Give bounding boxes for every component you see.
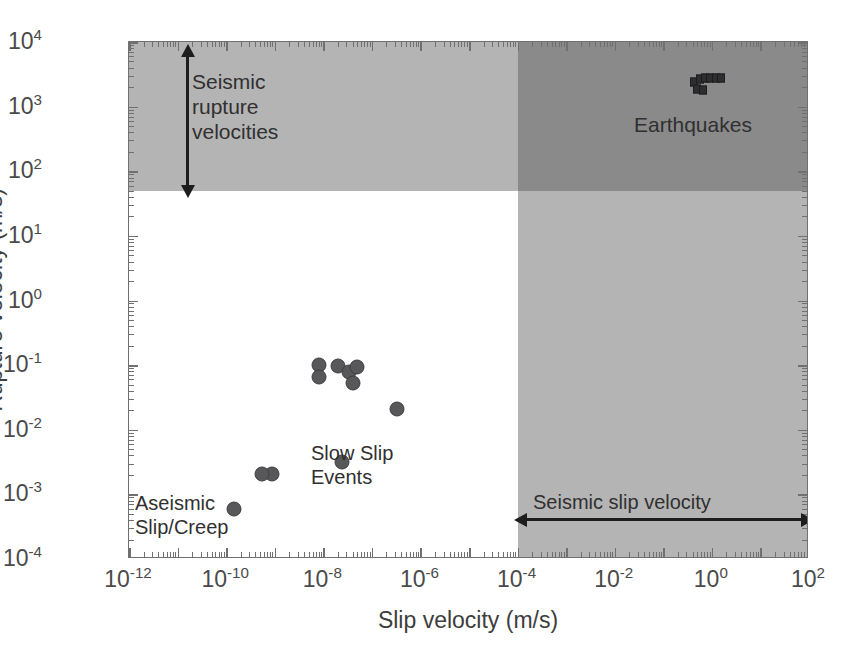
arrow-head-up-icon <box>181 44 195 57</box>
x-axis-tick-minor-top <box>173 42 174 47</box>
annotation-earthquakes: Earthquakes <box>634 113 752 138</box>
x-axis-tick-minor <box>144 552 145 557</box>
x-axis-tick-minor <box>644 552 645 557</box>
x-axis-tick-minor-top <box>401 42 402 47</box>
x-axis-tick-minor <box>492 552 493 557</box>
x-axis-tick-minor-top <box>370 42 371 47</box>
x-axis-tick-minor-top <box>458 42 459 47</box>
y-axis-tick-minor-right <box>802 371 807 372</box>
x-tick-label: 102 <box>791 566 825 593</box>
x-axis-tick-minor-top <box>644 42 645 47</box>
x-axis-tick-minor-top <box>201 42 202 47</box>
x-axis-tick-minor-top <box>289 42 290 47</box>
x-axis-tick-major-top <box>663 42 665 51</box>
y-axis-tick-major-right <box>798 236 807 238</box>
y-tick-label: 103 <box>8 92 42 119</box>
y-axis-tick-minor <box>129 197 134 198</box>
y-axis-tick-minor-right <box>802 126 807 127</box>
x-axis-tick-minor <box>367 552 368 557</box>
x-axis-tick-minor-top <box>221 42 222 47</box>
y-axis-tick-minor <box>129 368 134 369</box>
x-axis-tick-minor <box>255 552 256 557</box>
x-axis-tick-minor <box>467 552 468 557</box>
y-axis-tick-major <box>129 301 138 303</box>
x-axis-tick-minor-top <box>555 42 556 47</box>
x-axis-tick-minor-top <box>510 42 511 47</box>
y-axis-tick-minor <box>129 255 134 256</box>
x-axis-tick-minor <box>264 552 265 557</box>
x-axis-tick-minor <box>298 552 299 557</box>
x-axis-tick-minor-top <box>693 42 694 47</box>
y-axis-tick-minor-right <box>802 307 807 308</box>
y-axis-tick-minor-right <box>802 56 807 57</box>
y-axis-tick-minor-right <box>802 48 807 49</box>
y-axis-tick-minor-right <box>802 399 807 400</box>
data-point-earthquakes <box>699 85 707 94</box>
x-axis-tick-minor <box>661 552 662 557</box>
x-axis-tick-minor <box>410 552 411 557</box>
x-axis-tick-minor <box>361 552 362 557</box>
x-axis-tick-minor-top <box>319 42 320 47</box>
y-axis-tick-minor-right <box>802 242 807 243</box>
x-axis-tick-minor <box>313 552 314 557</box>
y-axis-tick-minor-right <box>802 440 807 441</box>
x-axis-tick-minor <box>364 552 365 557</box>
y-axis-tick-minor-right <box>802 52 807 53</box>
x-axis-tick-minor <box>338 552 339 557</box>
y-axis-tick-minor-right <box>802 528 807 529</box>
x-axis-tick-minor-top <box>589 42 590 47</box>
x-axis-tick-minor-top <box>794 42 795 47</box>
y-axis-tick-minor-right <box>802 509 807 510</box>
x-axis-tick-minor <box>241 552 242 557</box>
x-axis-tick-minor <box>604 552 605 557</box>
x-axis-tick-minor <box>249 552 250 557</box>
y-axis-tick-minor-right <box>802 433 807 434</box>
y-axis-tick-minor <box>129 520 134 521</box>
y-axis-tick-minor-right <box>802 68 807 69</box>
x-axis-tick-major <box>226 548 228 557</box>
x-axis-tick-minor-top <box>678 42 679 47</box>
y-axis-tick-minor <box>129 61 134 62</box>
x-axis-tick-major-top <box>372 42 374 51</box>
x-axis-tick-minor-top <box>152 42 153 47</box>
x-axis-tick-major-top <box>129 42 131 51</box>
y-axis-tick-minor <box>129 239 134 240</box>
x-axis-tick-minor <box>270 552 271 557</box>
y-axis-tick-minor-right <box>802 113 807 114</box>
x-axis-tick-minor <box>513 552 514 557</box>
data-point-slow-slip-events <box>349 360 364 375</box>
x-axis-tick-minor-top <box>464 42 465 47</box>
x-axis-tick-minor-top <box>484 42 485 47</box>
y-axis-tick-major-right <box>798 107 807 109</box>
y-axis-tick-minor-right <box>802 205 807 206</box>
x-axis-tick-minor <box>612 552 613 557</box>
x-axis-tick-major-top <box>469 42 471 51</box>
y-axis-tick-minor-right <box>802 497 807 498</box>
x-axis-tick-major <box>469 548 471 557</box>
x-axis-tick-minor-top <box>353 42 354 47</box>
x-axis-tick-minor <box>272 552 273 557</box>
y-axis-tick-minor <box>129 110 134 111</box>
y-axis-tick-minor <box>129 433 134 434</box>
y-axis-tick-minor <box>129 464 134 465</box>
y-axis-tick-minor-right <box>802 385 807 386</box>
x-axis-tick-minor <box>659 552 660 557</box>
x-axis-tick-minor-top <box>710 42 711 47</box>
x-axis-tick-minor <box>370 552 371 557</box>
x-axis-tick-minor-top <box>418 42 419 47</box>
x-axis-tick-minor-top <box>357 42 358 47</box>
x-axis-tick-minor <box>686 552 687 557</box>
y-axis-tick-minor-right <box>802 181 807 182</box>
annotation-seismic-slip-velocity: Seismic slip velocity <box>533 491 711 515</box>
y-axis-tick-minor <box>129 281 134 282</box>
x-axis-tick-minor <box>638 552 639 557</box>
x-axis-tick-major <box>663 548 665 557</box>
x-axis-tick-minor-top <box>595 42 596 47</box>
y-axis-tick-minor <box>129 132 134 133</box>
x-axis-tick-minor-top <box>298 42 299 47</box>
arrow-head-right-icon <box>801 513 808 527</box>
x-axis-tick-minor <box>357 552 358 557</box>
x-axis-tick-minor-top <box>559 42 560 47</box>
x-axis-tick-minor <box>741 552 742 557</box>
x-axis-tick-major-top <box>178 42 180 51</box>
